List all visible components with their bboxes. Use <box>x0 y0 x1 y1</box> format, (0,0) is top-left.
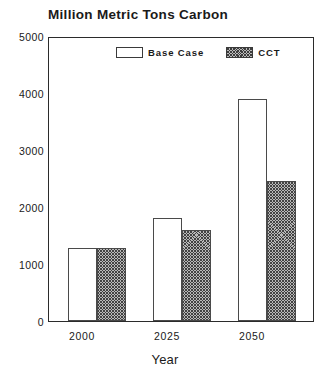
bar-cct-2025 <box>182 230 211 321</box>
legend-entry-cct: CCT <box>226 47 280 58</box>
x-axis-title: Year <box>0 352 330 367</box>
bar-cct-2050 <box>267 181 296 321</box>
bar-chart-figure: Million Metric Tons Carbon 5000 4000 300… <box>0 0 330 378</box>
y-tick-label-2000: 2000 <box>0 203 44 213</box>
x-tick-label-2025: 2025 <box>137 331 197 342</box>
chart-title: Million Metric Tons Carbon <box>48 7 228 23</box>
legend-swatch-cct-icon <box>226 47 253 58</box>
legend-swatch-base-case-icon <box>116 47 143 58</box>
legend-entry-base-case: Base Case <box>116 47 204 58</box>
bar-base-case-2000 <box>68 248 97 321</box>
y-tick-label-5000: 5000 <box>0 32 44 42</box>
y-tick-label-4000: 4000 <box>0 89 44 99</box>
bar-base-case-2050 <box>238 99 267 321</box>
y-tick-label-1000: 1000 <box>0 260 44 270</box>
y-tick-label-3000: 3000 <box>0 146 44 156</box>
chart-legend: Base Case CCT <box>116 47 280 58</box>
x-tick-label-2050: 2050 <box>222 331 282 342</box>
y-tick-label-0: 0 <box>0 317 44 327</box>
plot-area: Base Case CCT <box>48 37 314 322</box>
x-tick-label-2000: 2000 <box>52 331 112 342</box>
bar-base-case-2025 <box>153 218 182 321</box>
legend-label-cct: CCT <box>258 48 280 58</box>
legend-label-base-case: Base Case <box>148 48 204 58</box>
bar-cct-2000 <box>97 248 126 321</box>
